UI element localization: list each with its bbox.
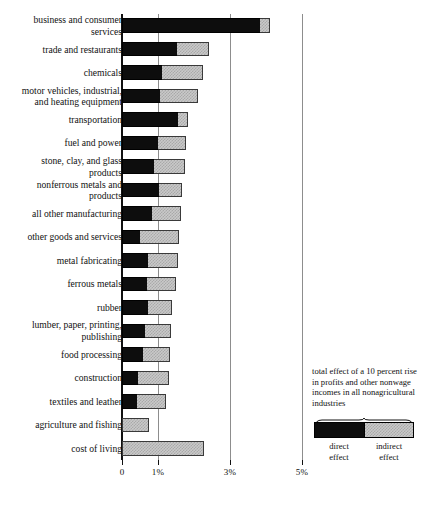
bar-segment-indirect-effect <box>140 230 179 245</box>
bar-segment-indirect-effect <box>122 418 149 433</box>
stacked-bar <box>122 249 178 272</box>
category-label: construction <box>4 372 122 383</box>
category-label: textiles and leather <box>4 396 122 407</box>
bar-row: fuel and power <box>0 131 432 154</box>
category-label: other goods and services <box>4 231 122 242</box>
category-label: trade and restaurants <box>4 44 122 55</box>
bar-segment-indirect-effect <box>159 183 182 198</box>
stacked-bar <box>122 202 181 225</box>
stacked-bar <box>122 155 185 178</box>
category-label: agriculture and fishing <box>4 419 122 430</box>
category-label: rubber <box>4 302 122 313</box>
bar-segment-indirect-effect <box>158 136 186 151</box>
legend-swatches <box>314 422 414 438</box>
legend-label-direct-effect: direct effect <box>314 441 364 461</box>
tick-mark-3pct <box>230 460 231 465</box>
legend: total effect of a 10 percent rise in pro… <box>312 366 424 462</box>
tick-label-1pct: 1% <box>152 467 164 477</box>
category-label: motor vehicles, industrial, and heating … <box>4 85 122 108</box>
bar-segment-indirect-effect <box>143 347 170 362</box>
stacked-bar <box>122 272 176 295</box>
tick-label-0: 0 <box>120 467 125 477</box>
category-label: lumber, paper, printing, publishing <box>4 319 122 342</box>
stacked-bar <box>122 296 172 319</box>
bar-row: business and consumer services <box>0 14 432 37</box>
bar-row: motor vehicles, industrial, and heating … <box>0 84 432 107</box>
category-label: nonferrous metals and products <box>4 179 122 202</box>
category-label: fuel and power <box>4 137 122 148</box>
stacked-bar <box>122 178 182 201</box>
bar-segment-indirect-effect <box>148 300 172 315</box>
bar-segment-direct-effect <box>122 183 159 198</box>
bar-segment-direct-effect <box>122 277 147 292</box>
stacked-bar <box>122 37 209 60</box>
stacked-bar <box>122 84 198 107</box>
category-label: metal fabricating <box>4 255 122 266</box>
tick-mark-5pct <box>302 460 303 465</box>
bar-segment-indirect-effect <box>152 206 181 221</box>
bar-segment-indirect-effect <box>177 42 209 57</box>
stacked-bar <box>122 61 203 84</box>
stacked-bar <box>122 437 204 460</box>
bar-segment-indirect-effect <box>260 18 270 33</box>
bar-row: food processing <box>0 343 432 366</box>
legend-captions: direct effect indirect effect <box>314 441 414 461</box>
bar-segment-direct-effect <box>122 371 138 386</box>
bar-segment-direct-effect <box>122 394 137 409</box>
bar-segment-indirect-effect <box>148 253 178 268</box>
bar-segment-direct-effect <box>122 347 143 362</box>
bar-row: transportation <box>0 108 432 131</box>
category-label: food processing <box>4 349 122 360</box>
bar-row: stone, clay, and glass products <box>0 155 432 178</box>
bar-segment-direct-effect <box>122 324 145 339</box>
bar-segment-direct-effect <box>122 159 154 174</box>
bar-row: nonferrous metals and products <box>0 178 432 201</box>
stacked-bar <box>122 225 179 248</box>
bar-segment-indirect-effect <box>147 277 176 292</box>
stacked-bar <box>122 390 166 413</box>
stacked-bar <box>122 131 186 154</box>
bar-segment-direct-effect <box>122 206 152 221</box>
bar-segment-direct-effect <box>122 230 140 245</box>
bar-segment-direct-effect <box>122 89 160 104</box>
stacked-bar <box>122 14 270 37</box>
tick-mark-0 <box>122 460 123 465</box>
category-label: transportation <box>4 114 122 125</box>
bar-row: chemicals <box>0 61 432 84</box>
bar-row: lumber, paper, printing, publishing <box>0 319 432 342</box>
legend-swatch-direct-effect <box>315 423 364 437</box>
bar-segment-direct-effect <box>122 300 148 315</box>
category-label: ferrous metals <box>4 278 122 289</box>
bar-row: trade and restaurants <box>0 37 432 60</box>
bar-segment-direct-effect <box>122 42 177 57</box>
bar-row: metal fabricating <box>0 249 432 272</box>
category-label: stone, clay, and glass products <box>4 155 122 178</box>
category-label: chemicals <box>4 67 122 78</box>
bar-segment-indirect-effect <box>122 441 204 456</box>
bar-segment-indirect-effect <box>178 112 188 127</box>
bar-segment-direct-effect <box>122 253 148 268</box>
bar-segment-indirect-effect <box>137 394 166 409</box>
bar-row: other goods and services <box>0 225 432 248</box>
bar-chart: business and consumer servicestrade and … <box>0 0 432 508</box>
bar-segment-direct-effect <box>122 112 178 127</box>
legend-caption: total effect of a 10 percent rise in pro… <box>312 366 424 408</box>
stacked-bar <box>122 343 170 366</box>
bar-segment-indirect-effect <box>154 159 185 174</box>
stacked-bar <box>122 413 149 436</box>
category-label: cost of living <box>4 443 122 454</box>
bar-row: all other manufacturing <box>0 202 432 225</box>
bar-segment-direct-effect <box>122 18 260 33</box>
tick-mark-1pct <box>158 460 159 465</box>
legend-brace-icon <box>314 413 414 422</box>
bar-segment-direct-effect <box>122 65 162 80</box>
tick-label-5pct: 5% <box>296 467 308 477</box>
bar-row: rubber <box>0 296 432 319</box>
bar-segment-indirect-effect <box>145 324 171 339</box>
legend-swatch-indirect-effect <box>364 423 413 437</box>
bar-segment-indirect-effect <box>162 65 203 80</box>
stacked-bar <box>122 108 188 131</box>
category-label: all other manufacturing <box>4 208 122 219</box>
bar-row: ferrous metals <box>0 272 432 295</box>
category-label: business and consumer services <box>4 14 122 37</box>
